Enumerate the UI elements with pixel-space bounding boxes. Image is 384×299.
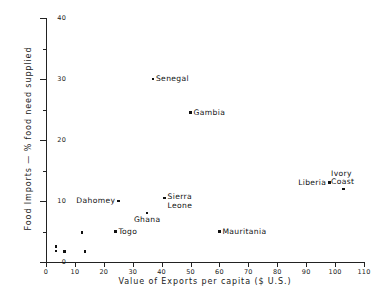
x-tick-label-40: 40 bbox=[152, 268, 172, 276]
x-axis-line bbox=[46, 262, 364, 263]
data-point-ghana bbox=[146, 212, 149, 215]
x-axis-title: Value of Exports per capita ($ U.S.) bbox=[46, 277, 364, 286]
x-tick-60 bbox=[219, 262, 220, 267]
y-tick-minor-5 bbox=[43, 232, 46, 233]
x-tick-80 bbox=[277, 262, 278, 267]
x-tick-10 bbox=[75, 262, 76, 267]
x-tick-30 bbox=[133, 262, 134, 267]
x-tick-90 bbox=[306, 262, 307, 267]
x-tick-50 bbox=[191, 262, 192, 267]
x-tick-label-110: 110 bbox=[354, 268, 374, 276]
data-point-togo bbox=[114, 230, 117, 233]
x-tick-label-80: 80 bbox=[267, 268, 287, 276]
y-tick-label-30: 30 bbox=[40, 76, 66, 83]
data-point-gambia bbox=[189, 111, 192, 114]
data-point bbox=[84, 250, 87, 253]
x-tick-40 bbox=[162, 262, 163, 267]
data-point-label: Gambia bbox=[194, 108, 226, 117]
data-point bbox=[81, 231, 84, 234]
data-point-label: Dahomey bbox=[76, 197, 115, 206]
x-tick-label-10: 10 bbox=[65, 268, 85, 276]
x-tick-label-20: 20 bbox=[94, 268, 114, 276]
data-point bbox=[55, 245, 58, 248]
y-tick-minor-15 bbox=[43, 171, 46, 172]
data-point-label: Mauritania bbox=[222, 227, 266, 236]
x-tick-label-50: 50 bbox=[181, 268, 201, 276]
data-point-senegal bbox=[152, 78, 155, 81]
data-point-mauritania bbox=[218, 230, 221, 233]
x-tick-0 bbox=[46, 262, 47, 267]
x-tick-label-0: 0 bbox=[36, 268, 56, 276]
scatter-plot-figure: 010203040 0102030405060708090100110 Food… bbox=[0, 0, 384, 299]
x-tick-110 bbox=[364, 262, 365, 267]
y-tick-minor-35 bbox=[43, 49, 46, 50]
x-tick-label-100: 100 bbox=[325, 268, 345, 276]
y-axis-title: Food Imports — % food need supplied bbox=[24, 20, 33, 258]
x-tick-100 bbox=[335, 262, 336, 267]
data-point-label: Ghana bbox=[134, 216, 161, 225]
x-tick-label-70: 70 bbox=[238, 268, 258, 276]
data-point-label: Liberia bbox=[298, 178, 326, 187]
x-tick-label-30: 30 bbox=[123, 268, 143, 276]
x-tick-70 bbox=[248, 262, 249, 267]
data-point bbox=[55, 250, 58, 253]
data-point-ivory-coast bbox=[342, 188, 345, 191]
x-tick-label-60: 60 bbox=[209, 268, 229, 276]
y-tick-label-10: 10 bbox=[40, 198, 66, 205]
data-point-label: Ivory Coast bbox=[331, 170, 354, 187]
data-point-label: Senegal bbox=[156, 75, 189, 84]
data-point-label: Togo bbox=[118, 227, 137, 236]
data-point-label: Sierra Leone bbox=[168, 193, 193, 210]
x-tick-20 bbox=[104, 262, 105, 267]
data-point-sierra-leone bbox=[163, 197, 166, 200]
x-tick-label-90: 90 bbox=[296, 268, 316, 276]
data-point-dahomey bbox=[117, 200, 120, 203]
data-point bbox=[63, 250, 66, 253]
y-tick-label-0: 0 bbox=[40, 259, 66, 266]
y-tick-label-20: 20 bbox=[40, 137, 66, 144]
y-tick-label-40: 40 bbox=[40, 15, 66, 22]
y-tick-minor-25 bbox=[43, 110, 46, 111]
